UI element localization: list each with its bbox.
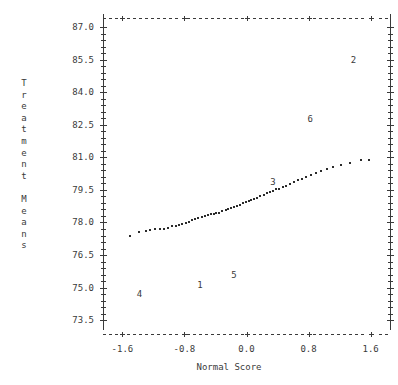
data-point bbox=[263, 194, 265, 196]
y-axis-minor-tick bbox=[388, 236, 393, 237]
axis-dash bbox=[175, 18, 178, 19]
y-axis-minor-tick bbox=[388, 229, 393, 230]
axis-dash bbox=[319, 334, 322, 335]
axis-dash bbox=[289, 334, 292, 335]
axis-dash bbox=[151, 334, 154, 335]
y-axis-minor-tick bbox=[388, 301, 393, 302]
data-point bbox=[145, 230, 147, 232]
axis-tick-plus bbox=[307, 332, 312, 337]
data-point bbox=[239, 204, 241, 206]
axis-tick-plus bbox=[245, 16, 250, 21]
y-axis-minor-tick bbox=[388, 196, 393, 197]
data-point bbox=[282, 186, 284, 188]
data-point bbox=[194, 218, 196, 220]
data-point bbox=[349, 162, 351, 164]
y-axis-minor-tick bbox=[388, 34, 393, 35]
axis-dash bbox=[187, 334, 190, 335]
normal-score-plot: T r e a t m e n t M e a n s 73.575.076.5… bbox=[0, 0, 398, 385]
data-point bbox=[215, 212, 217, 214]
axis-dash bbox=[337, 18, 340, 19]
axis-dash bbox=[343, 18, 346, 19]
data-point bbox=[320, 170, 322, 172]
x-tick-label: -0.8 bbox=[174, 344, 196, 354]
axis-dash bbox=[109, 18, 112, 19]
x-axis-tick-labels: -1.6-0.80.00.81.6 bbox=[0, 0, 398, 385]
data-point bbox=[259, 195, 261, 197]
y-axis-major-tick bbox=[100, 60, 107, 61]
axis-dash bbox=[169, 334, 172, 335]
y-axis-major-tick bbox=[387, 157, 394, 158]
data-point bbox=[368, 159, 370, 161]
y-axis-minor-tick bbox=[101, 281, 106, 282]
group-label-4: 4 bbox=[137, 289, 142, 299]
y-axis-minor-tick bbox=[388, 262, 393, 263]
axis-dash bbox=[115, 18, 118, 19]
y-axis-minor-tick bbox=[388, 47, 393, 48]
y-axis-minor-tick bbox=[388, 216, 393, 217]
axis-dash bbox=[259, 334, 262, 335]
data-point bbox=[221, 210, 223, 212]
y-axis-minor-tick bbox=[388, 131, 393, 132]
y-axis-minor-tick bbox=[388, 144, 393, 145]
axis-dash bbox=[133, 334, 136, 335]
axis-dash bbox=[127, 334, 130, 335]
data-point bbox=[253, 198, 255, 200]
data-point bbox=[181, 223, 183, 225]
data-point bbox=[275, 188, 277, 190]
axis-dash bbox=[313, 334, 316, 335]
y-axis-minor-tick bbox=[388, 268, 393, 269]
y-axis-minor-tick bbox=[388, 86, 393, 87]
y-axis-minor-tick bbox=[101, 79, 106, 80]
y-axis-minor-tick bbox=[101, 229, 106, 230]
y-axis-major-tick bbox=[100, 320, 107, 321]
axis-dash bbox=[199, 334, 202, 335]
y-axis-minor-tick bbox=[388, 112, 393, 113]
data-point bbox=[159, 228, 161, 230]
axis-dash bbox=[163, 18, 166, 19]
data-point bbox=[154, 228, 156, 230]
y-axis-major-tick bbox=[100, 190, 107, 191]
x-axis-title: Normal Score bbox=[0, 362, 398, 372]
y-axis-major-tick bbox=[100, 125, 107, 126]
axis-dash bbox=[337, 334, 340, 335]
data-point bbox=[129, 235, 131, 237]
axis-dash bbox=[331, 334, 334, 335]
y-axis-minor-tick bbox=[101, 216, 106, 217]
y-axis-minor-tick bbox=[101, 131, 106, 132]
data-point bbox=[163, 228, 165, 230]
axis-tick-plus bbox=[120, 16, 125, 21]
axis-tick-plus bbox=[120, 332, 125, 337]
y-axis-minor-tick bbox=[101, 203, 106, 204]
y-axis-minor-tick bbox=[388, 307, 393, 308]
axis-dash bbox=[217, 18, 220, 19]
y-axis-minor-tick bbox=[101, 262, 106, 263]
y-axis-minor-tick bbox=[101, 170, 106, 171]
y-axis-major-tick bbox=[387, 60, 394, 61]
axis-dash bbox=[133, 18, 136, 19]
axis-dash bbox=[325, 18, 328, 19]
y-axis-minor-tick bbox=[388, 275, 393, 276]
y-axis-minor-tick bbox=[101, 183, 106, 184]
data-point bbox=[278, 188, 280, 190]
y-axis-minor-tick bbox=[388, 105, 393, 106]
axis-dash bbox=[187, 18, 190, 19]
data-point bbox=[185, 222, 187, 224]
y-axis-minor-tick bbox=[101, 40, 106, 41]
y-axis-minor-tick bbox=[388, 281, 393, 282]
y-axis-minor-tick bbox=[101, 138, 106, 139]
axis-dash bbox=[379, 334, 382, 335]
y-axis-minor-tick bbox=[388, 209, 393, 210]
axis-tick-plus bbox=[182, 332, 187, 337]
axis-dash bbox=[205, 334, 208, 335]
axis-dash bbox=[193, 334, 196, 335]
axis-dash bbox=[301, 18, 304, 19]
y-axis-minor-tick bbox=[101, 275, 106, 276]
y-axis-major-tick bbox=[387, 320, 394, 321]
axis-dash bbox=[205, 18, 208, 19]
y-axis-minor-tick bbox=[388, 203, 393, 204]
axis-dash bbox=[283, 334, 286, 335]
axis-dash bbox=[271, 18, 274, 19]
axis-dash bbox=[259, 18, 262, 19]
axis-tick-plus bbox=[182, 16, 187, 21]
y-axis-minor-tick bbox=[101, 73, 106, 74]
